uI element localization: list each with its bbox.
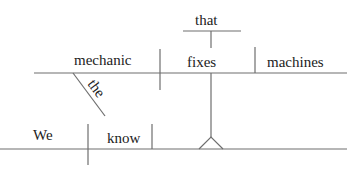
main-subject-word: We [33,128,53,143]
pedestal-triangle [199,137,223,149]
clause-verb-word: fixes [187,55,216,70]
clause-subject-word: mechanic [74,53,131,68]
clause-object-word: machines [267,55,324,70]
sentence-diagram: that mechanic fixes machines the We know [0,0,363,171]
connector-word: that [195,13,218,28]
main-verb-word: know [107,131,140,146]
diagram-lines [0,0,363,171]
